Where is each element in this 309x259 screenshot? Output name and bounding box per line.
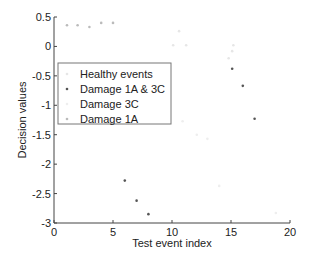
point-damage-1a-3c xyxy=(231,67,234,70)
y-tick-label: -1.5 xyxy=(32,129,51,141)
point-damage-1a-3c xyxy=(135,199,138,202)
point-healthy-events xyxy=(178,30,181,33)
y-tick-label: 0 xyxy=(45,40,51,52)
legend-marker xyxy=(66,88,69,91)
x-tick-label: 15 xyxy=(225,226,237,238)
y-tick-label: -3 xyxy=(41,217,51,229)
point-damage-3c xyxy=(218,185,221,188)
y-tick-label: -2.5 xyxy=(32,188,51,200)
y-ticks: -3-2.5-2-1.5-1-0.500.5 xyxy=(32,11,57,229)
point-healthy-events xyxy=(172,44,175,47)
point-damage-1a-3c xyxy=(242,85,245,88)
point-damage-1a xyxy=(66,24,69,27)
legend: Healthy eventsDamage 1A & 3CDamage 3CDam… xyxy=(58,63,171,125)
point-damage-1a xyxy=(76,24,79,27)
scatter-chart: 05101520 -3-2.5-2-1.5-1-0.500.5 Test eve… xyxy=(0,0,309,259)
legend-marker xyxy=(66,73,69,76)
y-tick-label: -1 xyxy=(41,99,51,111)
legend-entry: Damage 1A xyxy=(80,113,139,125)
x-tick-label: 5 xyxy=(110,226,116,238)
point-healthy-events xyxy=(232,44,235,47)
point-damage-1a-3c xyxy=(253,118,256,121)
point-damage-3c xyxy=(181,120,184,123)
x-tick-label: 20 xyxy=(284,226,296,238)
point-damage-1a-3c xyxy=(124,179,127,182)
point-damage-1a xyxy=(88,26,91,29)
legend-marker xyxy=(66,103,69,106)
point-damage-1a xyxy=(112,22,115,25)
point-damage-3c xyxy=(195,133,198,136)
point-damage-1a-3c xyxy=(147,213,150,216)
point-healthy-events xyxy=(185,44,188,47)
legend-marker xyxy=(66,118,69,121)
legend-entry: Damage 3C xyxy=(80,98,139,110)
point-healthy-events xyxy=(227,57,230,60)
point-healthy-events xyxy=(231,50,234,53)
legend-entry: Healthy events xyxy=(80,68,153,80)
point-damage-3c xyxy=(275,212,278,215)
y-tick-label: -2 xyxy=(41,158,51,170)
y-tick-label: 0.5 xyxy=(36,11,51,23)
point-damage-3c xyxy=(206,138,209,141)
y-tick-label: -0.5 xyxy=(32,70,51,82)
y-axis-label: Decision values xyxy=(16,81,28,159)
legend-entry: Damage 1A & 3C xyxy=(80,83,165,95)
point-damage-1a xyxy=(100,22,103,25)
x-axis-label: Test event index xyxy=(132,237,212,249)
x-tick-label: 0 xyxy=(51,226,57,238)
